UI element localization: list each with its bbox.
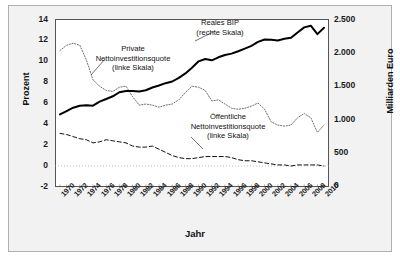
chart-root: 14 12 10 8 6 4 2 0 -2 2.500 2.000 1.500 … <box>0 0 400 257</box>
annotation-leader-line <box>91 59 105 75</box>
y-axis-tick-neg2: -2 <box>22 182 48 191</box>
chart-plot-lines <box>55 19 329 187</box>
y2-axis-tick-2000: 2.000 <box>334 48 368 57</box>
y-axis-title: Prozent <box>21 49 31 129</box>
y-axis-tick-12: 12 <box>22 35 48 44</box>
y2-axis-tick-1000: 1.000 <box>334 115 368 124</box>
y2-axis-tick-1500: 1.500 <box>334 81 368 90</box>
y-axis-tick-0: 0 <box>22 161 48 170</box>
annotation-leader-line <box>195 31 215 41</box>
y2-axis-title: Milliarden Euro <box>385 31 395 131</box>
series-line-2 <box>60 26 324 115</box>
y2-axis-tick-500: 500 <box>334 148 368 157</box>
y2-axis-tick-2500: 2.500 <box>334 15 368 24</box>
y-axis-tick-2: 2 <box>22 140 48 149</box>
series-line-0 <box>60 43 324 132</box>
y-axis-tick-14: 14 <box>22 15 48 24</box>
x-axis-title: Jahr <box>150 228 240 239</box>
annotation-leader-line <box>191 137 203 149</box>
